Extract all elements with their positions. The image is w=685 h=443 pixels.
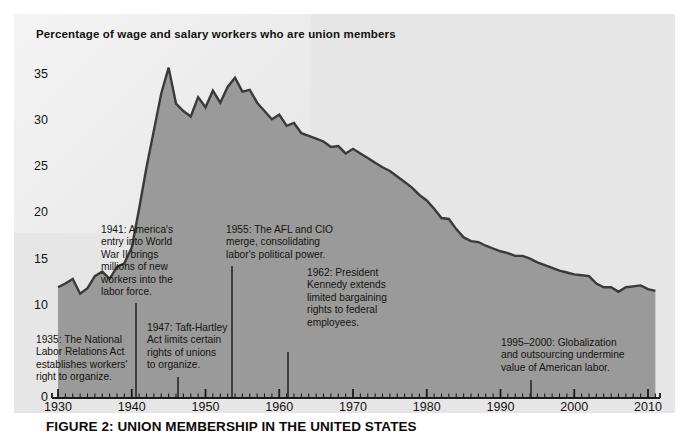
annotation-1995-2000: 1995–2000: Globalization and outsourcing… [501,337,624,374]
y-axis-tick-label-10: 10 [20,298,48,312]
annotation-1962: 1962: President Kennedy extends limited … [307,267,387,329]
figure-caption-number: FIGURE 2: [46,419,114,434]
annotation-1935: 1935: The National Labor Relations Act e… [36,334,127,384]
figure-container: Percentage of wage and salary workers wh… [0,0,685,443]
annotation-1947: 1947: Taft-Hartley Act limits certain ri… [147,322,227,372]
x-axis-tick-label-1950: 1950 [180,400,232,414]
annotation-1955: 1955: The AFL and CIO merge, consolidati… [226,224,333,261]
y-axis-tick-label-30: 30 [20,113,48,127]
y-axis-tick-label-35: 35 [20,67,48,81]
x-axis-tick-label-1930: 1930 [32,400,84,414]
x-axis-tick-label-2000: 2000 [548,400,600,414]
annotation-1941: 1941: America's entry into World War II … [101,224,173,298]
figure-caption-title: UNION MEMBERSHIP IN THE UNITED STATES [114,419,417,434]
x-axis-tick-label-1990: 1990 [475,400,527,414]
x-axis-tick-label-1960: 1960 [253,400,305,414]
figure-caption: FIGURE 2: UNION MEMBERSHIP IN THE UNITED… [46,419,417,434]
y-axis-tick-label-15: 15 [20,252,48,266]
x-axis-tick-label-2010: 2010 [622,400,674,414]
x-axis-tick-label-1940: 1940 [106,400,158,414]
y-axis-tick-label-25: 25 [20,159,48,173]
x-axis-tick-label-1980: 1980 [401,400,453,414]
y-axis-tick-label-20: 20 [20,205,48,219]
x-axis-tick-label-1970: 1970 [327,400,379,414]
